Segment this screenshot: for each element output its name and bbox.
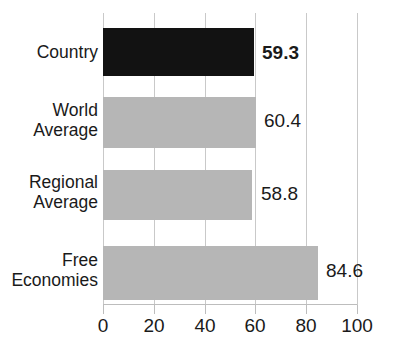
- value-label-free-economies: 84.6: [326, 260, 363, 282]
- value-label-world-average: 60.4: [264, 110, 301, 132]
- category-label-regional-average-line1: Regional: [0, 172, 98, 192]
- bar-regional-average: [103, 170, 252, 220]
- value-label-regional-average: 58.8: [261, 183, 298, 205]
- tick-80: [306, 305, 307, 314]
- category-label-regional-average: Regional Average: [0, 172, 98, 212]
- tick-label-80: 80: [295, 315, 316, 337]
- tick-label-60: 60: [244, 315, 265, 337]
- tick-label-100: 100: [341, 315, 373, 337]
- tick-40: [205, 305, 206, 314]
- bar-chart-screenshot: Country World Average Regional Average F…: [0, 0, 393, 355]
- chart-title-cropped: [0, 0, 393, 6]
- value-label-country: 59.3: [262, 42, 299, 64]
- category-label-world-average-line1: World: [0, 100, 98, 120]
- x-axis-line: [103, 304, 357, 305]
- plot-area: [103, 13, 357, 305]
- category-label-world-average: World Average: [0, 100, 98, 140]
- category-label-free-economies: Free Economies: [0, 250, 98, 290]
- tick-60: [255, 305, 256, 314]
- tick-20: [154, 305, 155, 314]
- tick-0: [103, 305, 104, 314]
- tick-label-0: 0: [98, 315, 109, 337]
- category-label-free-economies-line2: Economies: [0, 270, 98, 290]
- tick-label-20: 20: [143, 315, 164, 337]
- bar-free-economies: [103, 246, 318, 300]
- bar-world-average: [103, 97, 256, 148]
- category-label-country: Country: [0, 42, 98, 62]
- category-label-world-average-line2: Average: [0, 120, 98, 140]
- category-label-free-economies-line1: Free: [0, 250, 98, 270]
- tick-100: [357, 305, 358, 314]
- bar-country: [103, 28, 254, 76]
- category-label-regional-average-line2: Average: [0, 192, 98, 212]
- tick-label-40: 40: [194, 315, 215, 337]
- category-label-country-line1: Country: [0, 42, 98, 62]
